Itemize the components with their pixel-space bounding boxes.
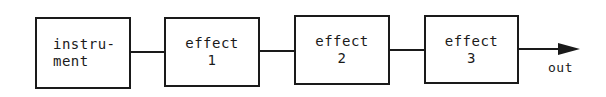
effect-3-number: 3 (467, 50, 476, 67)
effect-1-block: effect 1 (164, 17, 260, 87)
effect-1-number: 1 (208, 52, 217, 69)
output-label: out (548, 60, 573, 75)
effect-2-number: 2 (338, 50, 347, 67)
instrument-label-line-2: ment (53, 53, 89, 70)
connector-effect2-effect3 (390, 49, 424, 51)
connector-effect3-out (519, 48, 561, 50)
effect-1-label: effect (185, 35, 239, 52)
effect-3-label: effect (445, 33, 499, 50)
output-arrow-icon (558, 43, 580, 55)
instrument-label-line-1: instru- (53, 36, 116, 53)
instrument-block: instru- ment (35, 17, 131, 89)
signal-chain-diagram: instru- ment effect 1 effect 2 effect 3 … (0, 0, 606, 97)
effect-2-label: effect (315, 33, 369, 50)
connector-effect1-effect2 (260, 50, 294, 52)
connector-instrument-effect1 (131, 51, 164, 53)
effect-3-block: effect 3 (424, 15, 519, 84)
effect-2-block: effect 2 (294, 15, 390, 85)
